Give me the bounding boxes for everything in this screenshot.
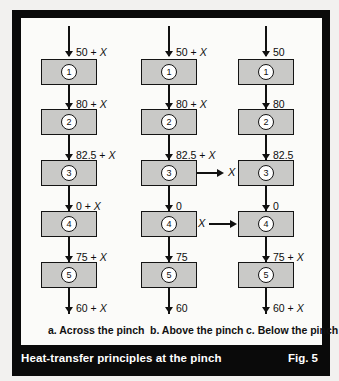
box-number-a-4: 4 xyxy=(61,216,77,232)
arrowhead-c-5 xyxy=(262,307,270,313)
process-box-b-4[interactable]: 4 xyxy=(141,211,197,237)
process-box-c-4[interactable]: 4 xyxy=(238,211,294,237)
process-box-b-3[interactable]: 3 xyxy=(141,160,197,186)
box-number-a-1: 1 xyxy=(61,64,77,80)
stream-label-b-5: 60 xyxy=(176,302,188,314)
diagram-column-b: 50 + X 1 80 + X 2 82.5 + X 3 X 0 xyxy=(125,18,225,345)
figure-number: Fig. 5 xyxy=(288,352,318,364)
box-number-c-1: 1 xyxy=(258,64,274,80)
stream-label-a-0: 50 + X xyxy=(76,46,107,58)
process-box-a-5[interactable]: 5 xyxy=(41,262,97,288)
process-box-a-4[interactable]: 4 xyxy=(41,211,97,237)
box-number-b-3: 3 xyxy=(161,165,177,181)
process-box-c-2[interactable]: 2 xyxy=(238,109,294,135)
arrowhead-a-0 xyxy=(65,51,73,57)
arrowhead-a-5 xyxy=(65,307,73,313)
process-box-c-3[interactable]: 3 xyxy=(238,160,294,186)
stream-label-a-5: 60 + X xyxy=(76,302,107,314)
box-number-b-1: 1 xyxy=(161,64,177,80)
arrowhead-b-0 xyxy=(165,51,173,57)
subcaption-a: a. Across the pinch xyxy=(48,324,144,336)
box-number-a-3: 3 xyxy=(61,165,77,181)
box-number-a-2: 2 xyxy=(61,114,77,130)
arrowhead-c-0 xyxy=(262,51,270,57)
subcaption-b: b. Above the pinch xyxy=(150,324,244,336)
box-number-c-4: 4 xyxy=(258,216,274,232)
stream-label-c-0: 50 xyxy=(273,46,285,58)
process-box-b-2[interactable]: 2 xyxy=(141,109,197,135)
box-number-b-5: 5 xyxy=(161,267,177,283)
box-number-b-4: 4 xyxy=(161,216,177,232)
process-box-a-3[interactable]: 3 xyxy=(41,160,97,186)
process-box-a-2[interactable]: 2 xyxy=(41,109,97,135)
diagram-panel: 50 + X 1 80 + X 2 82.5 + X 3 xyxy=(21,18,322,345)
box-number-c-3: 3 xyxy=(258,165,274,181)
side-flow-line-b xyxy=(197,172,219,174)
stream-label-b-0: 50 + X xyxy=(176,46,207,58)
box-number-a-5: 5 xyxy=(61,267,77,283)
side-flow-label-c: X xyxy=(198,217,205,229)
diagram-column-c: 50 1 80 2 82.5 3 0 X 4 xyxy=(222,18,322,345)
diagram-column-a: 50 + X 1 80 + X 2 82.5 + X 3 xyxy=(25,18,125,345)
figure-caption-text: Heat-transfer principles at the pinch xyxy=(21,352,222,364)
side-flow-arrowhead-c xyxy=(230,220,237,228)
process-box-c-5[interactable]: 5 xyxy=(238,262,294,288)
figure-caption-bar: Heat-transfer principles at the pinch Fi… xyxy=(21,350,322,372)
process-box-a-1[interactable]: 1 xyxy=(41,59,97,85)
process-box-b-5[interactable]: 5 xyxy=(141,262,197,288)
subcaption-c: c. Below the pinch xyxy=(246,324,338,336)
side-flow-line-c xyxy=(209,223,231,225)
stream-label-c-5: 60 + X xyxy=(273,302,304,314)
process-box-b-1[interactable]: 1 xyxy=(141,59,197,85)
arrowhead-b-5 xyxy=(165,307,173,313)
figure-screenshot: 50 + X 1 80 + X 2 82.5 + X 3 xyxy=(0,0,339,381)
box-number-c-2: 2 xyxy=(258,114,274,130)
process-box-c-1[interactable]: 1 xyxy=(238,59,294,85)
box-number-b-2: 2 xyxy=(161,114,177,130)
box-number-c-5: 5 xyxy=(258,267,274,283)
